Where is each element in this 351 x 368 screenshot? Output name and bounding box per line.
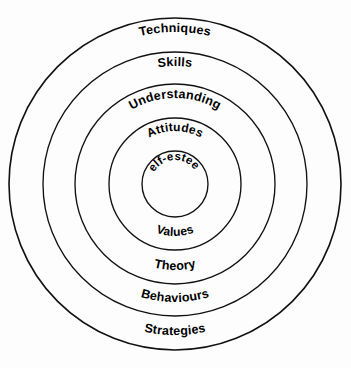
ring-label-behaviours: Behaviours: [140, 286, 211, 305]
ring-label-theory-text: Theory: [153, 257, 197, 273]
ring-label-strategies: Strategies: [143, 321, 206, 338]
ring-label-values: Values: [155, 222, 195, 239]
ring-label-techniques: Techniques: [138, 21, 213, 39]
ring-label-skills: Skills: [157, 55, 193, 70]
ring-label-understanding: Understanding: [126, 87, 223, 112]
ring-label-values-text: Values: [155, 222, 195, 239]
ring-label-understanding-text: Understanding: [126, 87, 223, 112]
ring-label-strategies-text: Strategies: [143, 321, 206, 338]
ring-label-techniques-text: Techniques: [138, 21, 213, 39]
ring-label-behaviours-text: Behaviours: [140, 286, 211, 305]
ring-label-skills-text: Skills: [157, 55, 193, 70]
diagram-canvas: Techniques Skills Understanding Attitude…: [0, 0, 351, 368]
ring-label-attitudes-text: Attitudes: [144, 120, 205, 141]
ring-label-attitudes: Attitudes: [144, 120, 205, 141]
concentric-circles-diagram: Techniques Skills Understanding Attitude…: [0, 0, 351, 368]
ring-label-theory: Theory: [153, 257, 197, 273]
ring-circle-understanding: [75, 84, 275, 284]
